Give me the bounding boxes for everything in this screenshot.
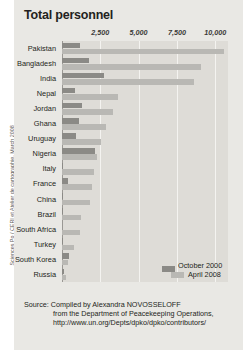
category-label: Nigeria xyxy=(33,149,56,158)
bar-october-2000 xyxy=(62,58,89,64)
source-note: Source: Compiled by Alexandra NOVOSSELOF… xyxy=(24,300,239,327)
bar-april-2008 xyxy=(62,275,66,281)
category-label: India xyxy=(40,74,56,83)
category-label: Russia xyxy=(33,270,56,279)
bar-october-2000 xyxy=(62,103,82,109)
chart-row xyxy=(62,146,228,161)
page-title: Total personnel xyxy=(24,8,113,22)
chart-row xyxy=(62,86,228,101)
category-label: Brazil xyxy=(38,210,56,219)
bar-october-2000 xyxy=(62,253,69,259)
bar-april-2008 xyxy=(62,109,113,115)
chart-row xyxy=(62,207,228,222)
chart-row xyxy=(62,177,228,192)
category-label: Ghana xyxy=(34,119,56,128)
legend-label-april-2008: April 2008 xyxy=(188,270,221,279)
category-label: China xyxy=(37,195,56,204)
bar-october-2000 xyxy=(62,208,63,214)
chart-legend: October 2000 April 2008 xyxy=(162,256,242,286)
bar-april-2008 xyxy=(62,184,92,190)
category-axis-labels: PakistanBangladeshIndiaNepalJordanGhanaU… xyxy=(14,41,59,282)
bar-april-2008 xyxy=(62,139,101,145)
bar-april-2008 xyxy=(62,245,74,251)
bar-april-2008 xyxy=(62,154,97,160)
bar-october-2000 xyxy=(62,269,64,275)
bar-april-2008 xyxy=(62,260,68,266)
bar-october-2000 xyxy=(62,148,95,154)
bar-october-2000 xyxy=(62,193,63,199)
source-line-3: http://www.un.org/Depts/dpko/dpko/contri… xyxy=(24,318,239,327)
chart-row xyxy=(62,131,228,146)
category-label: Bangladesh xyxy=(17,59,56,68)
chart-row xyxy=(62,192,228,207)
legend-swatch-april-2008 xyxy=(171,272,184,278)
category-label: South Africa xyxy=(16,225,56,234)
category-label: France xyxy=(33,179,56,188)
bar-april-2008 xyxy=(62,79,194,85)
bar-april-2008 xyxy=(62,215,81,221)
chart-figure: Total personnel 2,5005,0007,50010,000 Pa… xyxy=(14,0,243,350)
bar-april-2008 xyxy=(62,49,224,55)
chart-row xyxy=(62,162,228,177)
bar-october-2000 xyxy=(62,238,63,244)
legend-label-october-2000: October 2000 xyxy=(178,261,222,270)
category-label: Jordan xyxy=(33,104,56,113)
x-axis-tick-labels: 2,5005,0007,50010,000 xyxy=(62,28,228,41)
x-tick-label: 2,500 xyxy=(91,28,109,37)
x-tick-label: 10,000 xyxy=(204,28,226,37)
source-line-2: from the Department of Peacekeeping Oper… xyxy=(24,309,239,318)
source-line-1: Source: Compiled by Alexandra NOVOSSELOF… xyxy=(24,300,181,309)
bar-october-2000 xyxy=(62,118,79,124)
chart-row xyxy=(62,222,228,237)
bar-april-2008 xyxy=(62,200,90,206)
x-tick-label: 5,000 xyxy=(130,28,148,37)
bar-october-2000 xyxy=(62,163,63,169)
category-label: South Korea xyxy=(15,255,56,264)
chart-row xyxy=(62,237,228,252)
category-label: Nepal xyxy=(37,89,56,98)
bar-april-2008 xyxy=(62,64,201,70)
chart-row xyxy=(62,41,228,56)
category-label: Uruguay xyxy=(28,134,56,143)
category-label: Turkey xyxy=(34,240,56,249)
chart-row xyxy=(62,56,228,71)
bar-april-2008 xyxy=(62,169,94,175)
bar-april-2008 xyxy=(62,230,80,236)
bar-october-2000 xyxy=(62,88,75,94)
chart-row xyxy=(62,71,228,86)
chart-row xyxy=(62,116,228,131)
bar-october-2000 xyxy=(62,43,80,49)
bar-april-2008 xyxy=(62,94,118,100)
bar-april-2008 xyxy=(62,124,106,130)
category-label: Pakistan xyxy=(28,44,56,53)
plot-area xyxy=(62,41,228,282)
bar-october-2000 xyxy=(62,73,104,79)
bar-october-2000 xyxy=(62,178,68,184)
chart-row xyxy=(62,101,228,116)
bar-october-2000 xyxy=(62,133,76,139)
category-label: Italy xyxy=(42,164,56,173)
x-tick-label: 7,500 xyxy=(168,28,186,37)
legend-swatch-october-2000 xyxy=(162,266,175,272)
